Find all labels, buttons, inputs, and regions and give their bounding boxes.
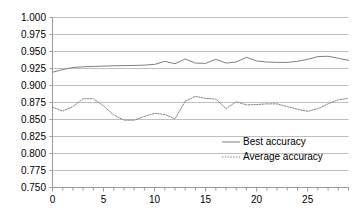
- x-axis-label: 25: [293, 195, 323, 205]
- y-axis-label: 0.850: [0, 115, 46, 125]
- y-axis-label: 0.825: [0, 132, 46, 142]
- legend-label-2: Average accuracy: [243, 152, 323, 162]
- y-axis-label: 0.750: [0, 183, 46, 193]
- x-axis-label: 5: [89, 195, 119, 205]
- x-axis-label: 20: [242, 195, 272, 205]
- x-axis-label: 10: [140, 195, 170, 205]
- legend-label-1: Best accuracy: [243, 137, 306, 147]
- chart-canvas: [0, 0, 359, 221]
- series-line-2: [53, 96, 349, 120]
- y-axis-label: 0.800: [0, 149, 46, 159]
- y-axis-label: 1.000: [0, 13, 46, 23]
- y-axis-label: 0.875: [0, 98, 46, 108]
- y-axis-label: 0.925: [0, 64, 46, 74]
- y-axis-label: 0.975: [0, 30, 46, 40]
- y-axis-label: 0.950: [0, 47, 46, 57]
- x-axis-label: 0: [38, 195, 68, 205]
- series-line-1: [53, 56, 349, 72]
- y-axis-label: 0.900: [0, 81, 46, 91]
- accuracy-line-chart: 0.7500.7750.8000.8250.8500.8750.9000.925…: [0, 0, 359, 221]
- y-axis-label: 0.775: [0, 166, 46, 176]
- x-axis-label: 15: [191, 195, 221, 205]
